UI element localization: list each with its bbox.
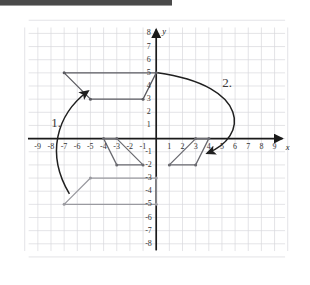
y-tick-4: 4 <box>147 82 151 90</box>
y-tick-5: 5 <box>147 69 151 77</box>
x-tick-9: 9 <box>273 143 277 151</box>
y-tick--7: -7 <box>145 227 152 235</box>
coordinate-plane <box>0 0 310 285</box>
vertex-marker <box>207 137 210 140</box>
x-tick--7: -7 <box>61 143 68 151</box>
x-tick--6: -6 <box>74 143 81 151</box>
y-tick--5: -5 <box>145 200 152 208</box>
annotation-label-2: 2. <box>222 76 232 89</box>
vertex-marker <box>89 177 92 180</box>
y-tick--1: -1 <box>145 148 152 156</box>
y-tick-3: 3 <box>147 95 151 103</box>
x-tick-8: 8 <box>259 143 263 151</box>
vertex-marker <box>115 163 118 166</box>
x-tick-6: 6 <box>233 143 237 151</box>
y-tick--3: -3 <box>145 174 152 182</box>
vertex-marker <box>142 98 145 101</box>
vertex-marker <box>155 203 158 206</box>
vertex-marker <box>102 137 105 140</box>
x-axis-label: x <box>286 143 290 152</box>
vertex-marker <box>142 163 145 166</box>
y-tick-6: 6 <box>147 56 151 64</box>
x-tick--8: -8 <box>48 143 55 151</box>
x-tick--9: -9 <box>34 143 41 151</box>
x-tick-2: 2 <box>181 143 185 151</box>
y-tick-2: 2 <box>147 108 151 116</box>
vertex-marker <box>155 177 158 180</box>
x-tick-1: 1 <box>167 143 171 151</box>
y-tick--6: -6 <box>145 214 152 222</box>
vertex-marker <box>168 163 171 166</box>
vertex-marker <box>194 163 197 166</box>
x-tick--4: -4 <box>100 143 107 151</box>
vertex-marker <box>194 137 197 140</box>
vertex-marker <box>63 71 66 74</box>
y-tick-8: 8 <box>147 29 151 37</box>
figure-canvas: -9-8-7-6-5-4-3-2-112345678987654321-1-2-… <box>0 0 310 285</box>
y-tick--4: -4 <box>145 187 152 195</box>
x-tick--5: -5 <box>87 143 94 151</box>
x-tick-5: 5 <box>220 143 224 151</box>
x-tick-3: 3 <box>194 143 198 151</box>
vertex-marker <box>155 71 158 74</box>
y-axis-label: y <box>162 27 166 36</box>
x-tick--2: -2 <box>126 143 133 151</box>
y-tick-7: 7 <box>147 43 151 51</box>
y-tick--2: -2 <box>145 161 152 169</box>
x-tick-7: 7 <box>246 143 250 151</box>
x-tick--3: -3 <box>113 143 120 151</box>
y-tick--8: -8 <box>145 240 152 248</box>
vertex-marker <box>115 137 118 140</box>
vertex-marker <box>89 98 92 101</box>
x-tick-4: 4 <box>207 143 211 151</box>
vertex-marker <box>63 203 66 206</box>
y-tick-1: 1 <box>147 121 151 129</box>
annotation-label-1: 1. <box>51 116 61 129</box>
